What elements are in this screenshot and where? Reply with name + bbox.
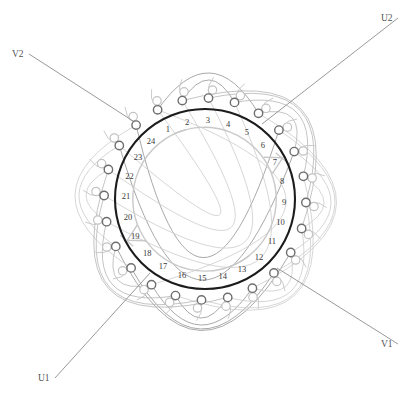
slot-number-23: 23 (134, 152, 143, 162)
slot-node-secondary (103, 243, 111, 251)
slot-number-21: 21 (122, 191, 131, 201)
slot-number-7: 7 (273, 157, 277, 167)
slot-number-17: 17 (159, 261, 168, 271)
slot-number-3: 3 (206, 115, 210, 125)
terminal-label-V1: V1 (381, 339, 393, 349)
slot-node-secondary (180, 88, 188, 96)
slot-node-secondary (222, 302, 230, 310)
terminal-label-V2: V2 (12, 49, 24, 59)
slot-node (112, 242, 120, 250)
slot-number-2: 2 (185, 117, 189, 127)
slot-number-12: 12 (255, 252, 264, 262)
slot-node-secondary (262, 104, 270, 112)
slot-number-18: 18 (143, 248, 152, 258)
coil-group-inner (83, 77, 326, 320)
slot-node (290, 147, 298, 155)
slot-node (224, 293, 232, 301)
terminal-leader-U2 (262, 18, 398, 124)
slot-number-9: 9 (282, 197, 286, 207)
slot-node (299, 172, 307, 180)
slot-node-secondary (92, 187, 100, 195)
stator-ring-outline (115, 109, 295, 289)
slot-node (132, 121, 140, 129)
slot-node (100, 191, 108, 199)
terminal-label-U2: U2 (381, 13, 393, 23)
slot-node-secondary (110, 134, 118, 142)
slot-number-14: 14 (219, 271, 228, 281)
slot-node (104, 165, 112, 173)
slot-number-19: 19 (131, 231, 140, 241)
slot-number-13: 13 (238, 264, 247, 274)
terminal-leader-U1 (55, 273, 150, 378)
slot-node-secondary (140, 286, 148, 294)
slot-number-1: 1 (166, 124, 170, 134)
winding-diagram-canvas: 123456789101112131415161718192021222324 … (0, 0, 408, 401)
slot-node (248, 284, 256, 292)
slot-node-secondary (292, 256, 300, 264)
slot-node (153, 106, 161, 114)
slot-node (275, 126, 283, 134)
slot-node (127, 264, 135, 272)
slot-number-15: 15 (198, 273, 207, 283)
slot-node (197, 296, 205, 304)
slot-node-secondary (273, 277, 281, 285)
slot-node (204, 94, 212, 102)
stator-winding-svg: 123456789101112131415161718192021222324 … (0, 0, 408, 401)
slot-node (270, 269, 278, 277)
slot-number-20: 20 (124, 212, 133, 222)
terminal-label-U1: U1 (38, 373, 50, 383)
slot-number-5: 5 (245, 127, 249, 137)
terminal-leader-V1 (277, 268, 398, 344)
slot-node-secondary (118, 267, 126, 275)
slot-number-24: 24 (147, 136, 156, 146)
slot-node-secondary (208, 86, 216, 94)
slot-node-secondary (249, 293, 257, 301)
slot-node (230, 98, 238, 106)
slot-number-10: 10 (276, 217, 285, 227)
slot-number-22: 22 (125, 171, 134, 181)
slot-number-4: 4 (226, 119, 231, 129)
slot-node-secondary (308, 174, 316, 182)
slot-node-secondary (193, 304, 201, 312)
slot-node-secondary (283, 123, 291, 131)
slot-node (302, 198, 310, 206)
terminal-leader-V2 (29, 54, 133, 121)
slot-node (115, 141, 123, 149)
slot-node (254, 109, 262, 117)
slot-node (297, 224, 305, 232)
slot-number-11: 11 (268, 236, 276, 246)
slot-node-secondary (94, 216, 102, 224)
slot-node-secondary (310, 202, 318, 210)
terminal-label-group: V2U2V1U1 (12, 13, 398, 383)
slot-node (287, 248, 295, 256)
slot-number-16: 16 (178, 270, 187, 280)
slot-node (102, 218, 110, 226)
slot-node-secondary (153, 97, 161, 105)
slot-node (171, 291, 179, 299)
slot-node (147, 281, 155, 289)
slot-number-6: 6 (261, 140, 265, 150)
slot-node (178, 96, 186, 104)
slot-node-secondary (299, 147, 307, 155)
slot-number-8: 8 (280, 176, 284, 186)
